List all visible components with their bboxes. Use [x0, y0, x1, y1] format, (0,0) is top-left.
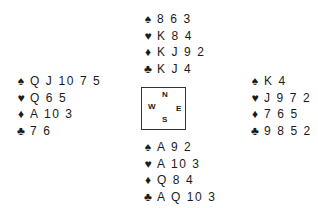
west-hearts-cards: Q 6 5	[30, 91, 67, 105]
spade-icon: ♠	[141, 139, 155, 155]
west-clubs-cards: 7 6	[30, 124, 51, 138]
compass-box: N W E S	[141, 87, 186, 130]
east-hearts-row: ♥J 9 7 2	[248, 90, 311, 106]
east-spades-cards: K 4	[264, 74, 287, 88]
north-diamonds-row: ♦K J 9 2	[141, 44, 206, 60]
south-diamonds-cards: Q 8 4	[157, 173, 194, 187]
east-diamonds-cards: 7 6 5	[264, 107, 299, 121]
east-clubs-cards: 9 8 5 2	[264, 124, 312, 138]
compass-east-label: E	[176, 105, 181, 113]
west-clubs-row: ♣7 6	[14, 123, 51, 139]
west-hearts-row: ♥Q 6 5	[14, 90, 67, 106]
south-hearts-cards: A 10 3	[157, 157, 201, 171]
east-diamonds-row: ♦7 6 5	[248, 106, 299, 122]
north-clubs-cards: K J 4	[157, 62, 192, 76]
diamond-icon: ♦	[14, 106, 28, 122]
east-clubs-row: ♣9 8 5 2	[248, 123, 312, 139]
north-hearts-row: ♥K 8 4	[141, 28, 193, 44]
south-hearts-row: ♥A 10 3	[141, 156, 201, 172]
heart-icon: ♥	[141, 156, 155, 172]
compass-west-label: W	[148, 103, 156, 111]
west-diamonds-cards: A 10 3	[30, 107, 74, 121]
south-diamonds-row: ♦Q 8 4	[141, 172, 194, 188]
north-spades-cards: 8 6 3	[157, 12, 192, 26]
west-diamonds-row: ♦A 10 3	[14, 106, 74, 122]
east-hearts-cards: J 9 7 2	[264, 91, 311, 105]
spade-icon: ♠	[248, 73, 262, 89]
club-icon: ♣	[141, 189, 155, 205]
heart-icon: ♥	[14, 90, 28, 106]
diamond-icon: ♦	[248, 106, 262, 122]
diamond-icon: ♦	[141, 44, 155, 60]
west-spades-cards: Q J 10 7 5	[30, 74, 101, 88]
north-hearts-cards: K 8 4	[157, 29, 193, 43]
south-spades-row: ♠A 9 2	[141, 139, 192, 155]
heart-icon: ♥	[141, 28, 155, 44]
compass-north-label: N	[162, 91, 168, 99]
north-spades-row: ♠8 6 3	[141, 11, 192, 27]
south-spades-cards: A 9 2	[157, 140, 192, 154]
south-clubs-cards: A Q 10 3	[157, 190, 217, 204]
east-spades-row: ♠K 4	[248, 73, 287, 89]
club-icon: ♣	[141, 61, 155, 77]
club-icon: ♣	[14, 123, 28, 139]
north-diamonds-cards: K J 9 2	[157, 45, 206, 59]
south-clubs-row: ♣A Q 10 3	[141, 189, 217, 205]
west-spades-row: ♠Q J 10 7 5	[14, 73, 101, 89]
heart-icon: ♥	[248, 90, 262, 106]
compass-south-label: S	[162, 116, 167, 124]
diamond-icon: ♦	[141, 172, 155, 188]
spade-icon: ♠	[14, 73, 28, 89]
north-clubs-row: ♣K J 4	[141, 61, 192, 77]
club-icon: ♣	[248, 123, 262, 139]
spade-icon: ♠	[141, 11, 155, 27]
